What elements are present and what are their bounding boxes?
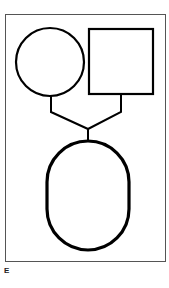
frame-border [6, 15, 166, 262]
circle-shape [16, 28, 84, 96]
oval-shape [47, 141, 129, 250]
diagram-canvas [0, 0, 169, 288]
connector-left [51, 96, 88, 129]
square-shape [89, 29, 153, 94]
panel-label: E [4, 266, 9, 275]
connector-right [88, 94, 121, 129]
